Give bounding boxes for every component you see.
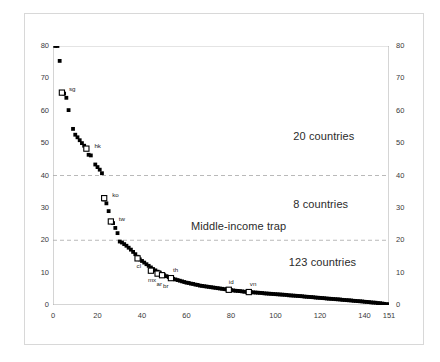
y-axis-tick-label-left-10: 10 [27,269,49,277]
data-point [387,302,389,305]
x-axis-tick-label-20: 20 [84,312,112,320]
chart-page: 0010102020303040405050606070708080020406… [0,0,440,362]
y-axis-tick-label-right-10: 10 [396,269,404,277]
x-axis-tick-label-151: 151 [375,312,403,320]
y-axis-tick-label-right-80: 80 [396,42,404,50]
point-label-th: th [173,267,178,273]
data-point [98,168,102,172]
data-point [64,96,68,100]
point-label-ar: ar [157,281,163,287]
y-axis-tick-label-right-60: 60 [396,107,404,115]
y-axis-tick-label-left-60: 60 [27,107,49,115]
y-axis-tick-label-left-0: 0 [27,301,49,309]
data-point [105,201,109,205]
x-axis-tick-label-0: 0 [39,312,67,320]
data-point [116,231,120,235]
data-point [56,46,60,48]
y-axis-tick-label-left-80: 80 [27,42,49,50]
y-axis-tick-label-left-20: 20 [27,236,49,244]
x-axis-tick-label-80: 80 [217,312,245,320]
highlight-point-sg [59,90,64,95]
highlight-point-ko [102,196,107,201]
data-point [67,108,71,112]
highlight-point-mx [148,268,153,273]
y-axis-tick-label-left-40: 40 [27,172,49,180]
data-point [71,127,75,131]
data-point [100,171,104,175]
y-axis-tick-label-left-70: 70 [27,74,49,82]
y-axis-tick-label-right-40: 40 [396,172,404,180]
y-axis-tick-label-right-20: 20 [396,236,404,244]
annotation-3: 123 countries [289,256,356,268]
point-label-cl: cl [137,263,141,269]
y-axis-tick-label-right-70: 70 [396,74,404,82]
highlight-point-cl [135,256,140,261]
y-axis-tick-label-right-30: 30 [396,204,404,212]
data-point [107,209,111,213]
x-axis-tick-label-120: 120 [306,312,334,320]
y-axis-tick-label-left-50: 50 [27,139,49,147]
x-axis-tick-label-40: 40 [128,312,156,320]
point-label-sg: sg [69,86,76,92]
x-axis-tick-label-60: 60 [173,312,201,320]
point-label-mx: mx [148,277,156,283]
y-axis-tick-label-left-30: 30 [27,204,49,212]
point-label-vn: vn [250,281,257,287]
point-label-tw: tw [119,216,125,222]
data-point [58,59,62,63]
highlight-point-br [159,273,164,278]
highlight-point-hk [84,146,89,151]
annotation-1: 8 countries [293,198,348,210]
point-label-br: br [163,283,169,289]
x-axis-tick-label-100: 100 [262,312,290,320]
data-point [89,154,93,158]
y-axis-tick-label-right-0: 0 [396,301,400,309]
highlight-point-tw [108,219,113,224]
highlight-point-vn [246,289,251,294]
data-point [113,226,117,230]
highlight-point-id [226,287,231,292]
y-axis-tick-label-right-50: 50 [396,139,404,147]
annotation-0: 20 countries [293,130,354,142]
point-label-id: id [229,279,234,285]
point-label-ko: ko [112,192,119,198]
highlight-point-th [168,276,173,281]
annotation-2: Middle-income trap [191,220,286,232]
point-label-hk: hk [94,143,101,149]
